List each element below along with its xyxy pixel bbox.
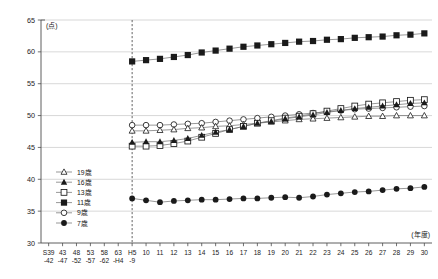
data-point [421,112,427,117]
data-point [394,186,400,192]
x-tick-label: 58 [101,249,109,256]
y-axis-unit-label: (点) [46,22,58,30]
marker-filled-square [213,47,219,53]
marker-filled-circle [408,185,414,191]
legend-label: 9歳 [77,208,88,216]
marker-filled-square [61,200,67,206]
marker-filled-circle [380,187,386,193]
x-tick-label-sub: -62 [100,257,110,264]
legend-marker [61,169,67,174]
data-point [171,198,177,204]
marker-filled-circle [143,197,149,203]
legend-label: 16歳 [77,178,92,186]
x-tick-label: 13 [184,249,192,256]
data-point [227,196,233,202]
data-point [213,197,219,203]
data-point [380,33,386,39]
data-point [394,112,400,117]
x-tick-label: 21 [295,249,303,256]
marker-filled-square [240,44,246,50]
marker-filled-square [226,46,232,52]
x-tick-label: 29 [407,249,415,256]
marker-filled-circle [241,196,247,202]
x-tick-label: 63 [115,249,123,256]
y-tick-label: 55 [27,79,35,88]
x-tick-label: 22 [309,249,317,256]
data-point [393,32,399,38]
x-tick-label: 53 [87,249,95,256]
marker-open-triangle [407,112,413,117]
legend-label: 19歳 [77,168,92,176]
legend-marker [61,200,67,206]
data-point [324,192,330,198]
legend: 19歳16歳13歳11歳9歳7歳 [56,168,92,227]
marker-filled-circle [254,196,260,202]
marker-filled-square [268,41,274,47]
marker-filled-circle [421,184,427,190]
data-point [171,54,177,60]
data-point [213,47,219,53]
marker-filled-circle [282,194,288,200]
marker-filled-square [282,40,288,46]
marker-filled-circle [129,196,135,202]
data-point [268,41,274,47]
x-tick-label: 20 [282,249,290,256]
y-tick-label: 45 [27,143,35,152]
x-tick-label: 43 [59,249,67,256]
data-point [352,35,358,41]
marker-filled-square [157,56,163,62]
x-tick-label: 17 [240,249,248,256]
marker-filled-triangle [61,179,67,185]
x-tick-label-sub: -57 [86,257,96,264]
y-tick-label: 65 [27,16,35,25]
marker-filled-square [310,38,316,44]
x-tick-label: 12 [170,249,178,256]
marker-open-triangle [61,169,67,174]
chart-container: 3035404550556065(点)(年度)S39-4243-4748-525… [0,0,438,279]
x-tick-label: S39 [43,249,55,256]
marker-filled-square [185,52,191,58]
data-point [129,196,135,202]
marker-filled-square [296,39,302,45]
marker-filled-circle [171,198,177,204]
x-tick-label-sub: -H4 [113,257,124,264]
x-tick-label: 23 [323,249,331,256]
marker-filled-circle [268,195,274,201]
x-tick-label-sub: -47 [58,257,68,264]
x-tick-label: 14 [198,249,206,256]
marker-filled-circle [61,220,67,226]
marker-open-circle [61,210,67,216]
data-point [296,195,302,201]
legend-label: 13歳 [77,188,92,196]
marker-filled-square [254,42,260,48]
data-point [226,46,232,52]
data-point [421,184,427,190]
data-point [324,37,330,43]
line-chart: 3035404550556065(点)(年度)S39-4243-4748-525… [0,0,438,279]
data-point [407,112,413,117]
legend-label: 11歳 [77,198,91,206]
marker-filled-square [199,49,205,55]
data-point [143,57,149,63]
legend-marker [61,179,67,185]
marker-filled-circle [310,194,316,200]
x-tick-label-sub: -9 [129,257,135,264]
legend-marker [61,220,67,226]
x-tick-label-sub: -52 [72,257,82,264]
data-point [282,40,288,46]
data-point [157,56,163,62]
marker-filled-square [352,35,358,41]
marker-filled-square [143,57,149,63]
data-point [199,49,205,55]
data-point [338,36,344,42]
marker-filled-circle [296,195,302,201]
data-point [407,32,413,38]
marker-filled-square [393,32,399,38]
x-tick-label: 16 [226,249,234,256]
legend-marker [61,210,67,216]
marker-filled-circle [157,199,163,205]
data-point [185,197,191,203]
x-tick-label: 28 [393,249,401,256]
marker-filled-square [129,58,135,64]
legend-label: 7歳 [77,219,88,227]
